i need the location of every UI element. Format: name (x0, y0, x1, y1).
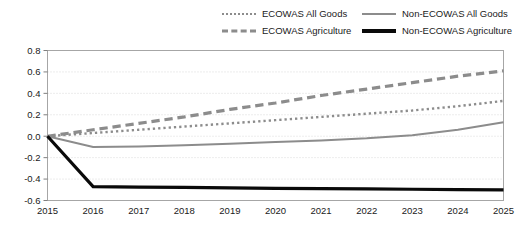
series-line (48, 71, 504, 136)
x-axis-tick-label: 2016 (83, 205, 104, 216)
line-chart-svg: 0.80.60.40.20.0-0.2-0.4-0.6 201520162017… (0, 0, 518, 235)
y-axis-ticks (44, 51, 48, 201)
series-lines (48, 71, 504, 190)
y-axis-tick-label: 0.8 (27, 45, 40, 56)
y-axis-tick-label: 0.6 (27, 66, 40, 77)
y-axis-tick-label: 0.2 (27, 109, 40, 120)
plot-area: 0.80.60.40.20.0-0.2-0.4-0.6 201520162017… (0, 0, 518, 235)
x-axis-labels: 2015201620172018201920202021202220232024… (37, 205, 514, 216)
series-line (48, 101, 504, 136)
y-axis-tick-label: 0.0 (27, 131, 40, 142)
y-axis-tick-label: 0.4 (27, 88, 40, 99)
x-axis-tick-label: 2017 (128, 205, 149, 216)
x-axis-tick-label: 2015 (37, 205, 58, 216)
y-axis-tick-label: -0.2 (24, 152, 40, 163)
x-axis-tick-label: 2020 (265, 205, 286, 216)
x-axis-tick-label: 2021 (311, 205, 332, 216)
y-axis-labels: 0.80.60.40.20.0-0.2-0.4-0.6 (24, 45, 40, 206)
x-axis-tick-label: 2024 (447, 205, 468, 216)
series-line (48, 136, 504, 190)
x-axis-tick-label: 2018 (174, 205, 195, 216)
x-axis-tick-label: 2025 (493, 205, 514, 216)
y-axis-tick-label: -0.4 (24, 173, 40, 184)
x-axis-tick-label: 2019 (219, 205, 240, 216)
x-axis-tick-label: 2022 (356, 205, 377, 216)
chart-container: ECOWAS All Goods Non-ECOWAS All Goods EC… (0, 0, 518, 235)
x-axis-tick-label: 2023 (402, 205, 423, 216)
